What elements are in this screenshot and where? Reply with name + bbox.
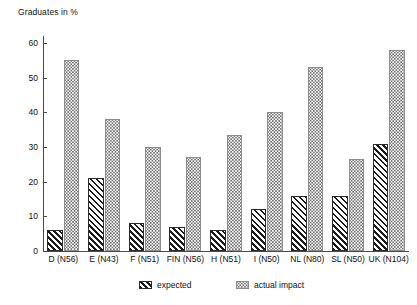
bar-expected-sl (332, 196, 348, 251)
y-tick-mark (43, 251, 47, 252)
bar-expected-e (88, 178, 104, 251)
x-axis-label: FIN (N56) (167, 254, 204, 264)
y-tick-label: 40 (0, 107, 38, 117)
x-axis-label: UK (N104) (369, 254, 409, 264)
x-axis-label: NL (N80) (290, 254, 324, 264)
x-axis-label: I (N50) (254, 254, 280, 264)
y-tick-label: 60 (0, 38, 38, 48)
chart-title: Graduates in % (18, 7, 78, 17)
y-tick-label: 10 (0, 211, 38, 221)
bar-expected-h (210, 230, 226, 251)
bar-actual-impact-h (227, 135, 243, 251)
bar-expected-fin (169, 227, 185, 251)
legend-label: actual impact (254, 280, 304, 290)
bar-actual-impact-d (64, 60, 80, 251)
x-axis-line (43, 251, 409, 252)
y-tick-label: 20 (0, 177, 38, 187)
legend-item-actual-impact[interactable]: actual impact (236, 280, 304, 290)
x-axis-label: E (N43) (89, 254, 118, 264)
bars-layer (43, 36, 409, 251)
y-tick-label: 30 (0, 142, 38, 152)
bar-expected-nl (291, 196, 307, 251)
chart-figure: Graduates in % 0102030405060 D (N56)E (N… (0, 0, 417, 305)
bar-actual-impact-i (267, 112, 283, 251)
y-tick-label: 50 (0, 73, 38, 83)
x-axis-labels: D (N56)E (N43)F (N51)FIN (N56)H (N51)I (… (43, 254, 409, 270)
legend-swatch-hatch-icon (139, 281, 152, 289)
bar-actual-impact-fin (186, 157, 202, 251)
x-axis-label: D (N56) (48, 254, 78, 264)
bar-expected-d (47, 230, 63, 251)
bar-actual-impact-uk (389, 50, 405, 251)
x-axis-label: H (N51) (211, 254, 241, 264)
bar-actual-impact-f (145, 147, 161, 251)
legend-swatch-dots-icon (236, 281, 249, 289)
y-tick-label: 0 (0, 246, 38, 256)
bar-expected-uk (373, 144, 389, 252)
bar-actual-impact-nl (308, 67, 324, 251)
legend-label: expected (157, 280, 192, 290)
x-axis-label: SL (N50) (331, 254, 365, 264)
legend-item-expected[interactable]: expected (139, 280, 192, 290)
x-axis-label: F (N51) (130, 254, 159, 264)
bar-expected-f (129, 223, 145, 251)
chart-legend: expectedactual impact (0, 280, 417, 294)
bar-actual-impact-sl (349, 159, 365, 251)
bar-actual-impact-e (105, 119, 121, 251)
bar-expected-i (251, 209, 267, 251)
